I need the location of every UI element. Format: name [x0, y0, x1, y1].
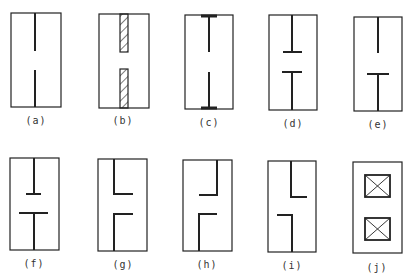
figure-canvas [0, 0, 413, 277]
upper-hatched-wall [120, 14, 128, 52]
label-g: (g) [103, 259, 143, 270]
lower-crossed-box [365, 218, 390, 240]
lower-L-wall [199, 214, 217, 251]
label-h: (h) [187, 259, 227, 270]
upper-L-wall [291, 161, 307, 197]
panel-e [354, 17, 402, 111]
frame [183, 160, 232, 251]
panel-g [98, 159, 147, 251]
panel-i [268, 161, 316, 252]
frame [98, 159, 147, 251]
panel-h [183, 160, 232, 251]
lower-L-wall [277, 215, 292, 252]
panel-b [99, 14, 149, 108]
label-e: (e) [358, 119, 398, 130]
upper-crossed-box [365, 175, 390, 197]
lower-hatched-wall [120, 69, 128, 108]
panel-j [353, 162, 402, 253]
upper-L-wall [114, 159, 133, 194]
panel-d [269, 15, 317, 110]
panel-c [185, 15, 233, 109]
panel-a [11, 13, 61, 107]
panel-f [10, 158, 59, 250]
label-i: (i) [272, 260, 312, 271]
label-a: (a) [16, 115, 56, 126]
label-f: (f) [14, 258, 54, 269]
lower-L-wall [114, 214, 133, 251]
label-b: (b) [103, 115, 143, 126]
upper-L-wall [199, 160, 217, 195]
label-d: (d) [273, 118, 313, 129]
label-j: (j) [357, 262, 397, 273]
label-c: (c) [189, 117, 229, 128]
